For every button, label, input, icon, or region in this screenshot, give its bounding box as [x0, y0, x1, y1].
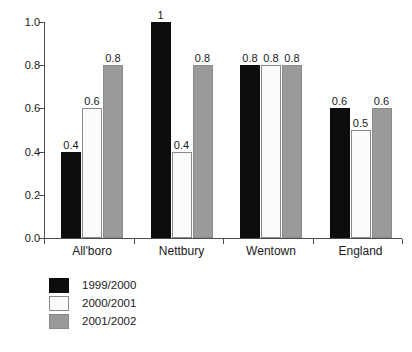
plot-area: 1.0 0.8 0.6 0.4 0.2 0.0 0.40.60.810.40.8…: [44, 22, 402, 238]
bar[interactable]: 0.6: [372, 108, 392, 238]
y-tick-label: 0.2: [25, 189, 40, 200]
x-tick: [223, 239, 224, 244]
bar[interactable]: 0.6: [82, 108, 102, 238]
bar-group: 0.80.80.8: [240, 22, 302, 238]
bar[interactable]: 0.8: [193, 65, 213, 238]
y-tick-label: 0.8: [25, 60, 40, 71]
legend-item[interactable]: 2001/2002: [49, 312, 136, 330]
bar[interactable]: 0.6: [330, 108, 350, 238]
bar-value-label: 0.8: [284, 52, 299, 64]
bar-value-label: 0.5: [353, 117, 368, 129]
y-tick-label: 1.0: [25, 17, 40, 28]
bar-value-label: 0.8: [105, 52, 120, 64]
bar-value-label: 0.8: [242, 52, 257, 64]
bar-group: 0.40.60.8: [61, 22, 123, 238]
x-tick: [402, 239, 403, 244]
legend-item-label: 2001/2002: [82, 315, 136, 328]
bar-value-label: 1: [157, 9, 163, 21]
y-tick-label: 0.0: [25, 233, 40, 244]
bar-group: 0.60.50.6: [330, 22, 392, 238]
bar-group: 10.40.8: [151, 22, 213, 238]
bar[interactable]: 1: [151, 22, 171, 238]
bar[interactable]: 0.8: [240, 65, 260, 238]
x-tick: [134, 239, 135, 244]
legend-item-label: 1999/2000: [82, 279, 136, 292]
bar[interactable]: 0.8: [282, 65, 302, 238]
bar-value-label: 0.4: [174, 139, 189, 151]
black-swatch-icon: [49, 278, 69, 293]
bar-value-label: 0.8: [195, 52, 210, 64]
bar-value-label: 0.4: [63, 139, 78, 151]
y-tick-label: 0.6: [25, 103, 40, 114]
bar-value-label: 0.6: [332, 95, 347, 107]
legend-item-label: 2000/2001: [82, 297, 136, 310]
legend-item[interactable]: 1999/2000: [49, 276, 136, 294]
legend-item[interactable]: 2000/2001: [49, 294, 136, 312]
category-label: Nettbury: [159, 244, 204, 258]
category-label: Wentown: [246, 244, 296, 258]
category-label: England: [338, 244, 382, 258]
bar[interactable]: 0.8: [103, 65, 123, 238]
white-swatch-icon: [49, 296, 69, 311]
y-tick-label: 0.4: [25, 146, 40, 157]
x-tick: [44, 239, 45, 244]
bar-value-label: 0.8: [263, 52, 278, 64]
bar-value-label: 0.6: [84, 95, 99, 107]
bar-chart: 1.0 0.8 0.6 0.4 0.2 0.0 0.40.60.810.40.8…: [0, 0, 412, 352]
bar-value-label: 0.6: [374, 95, 389, 107]
x-tick: [313, 239, 314, 244]
bar[interactable]: 0.5: [351, 130, 371, 238]
bar[interactable]: 0.4: [172, 152, 192, 238]
bar[interactable]: 0.8: [261, 65, 281, 238]
bar[interactable]: 0.4: [61, 152, 81, 238]
category-label: All'boro: [72, 244, 112, 258]
legend: 1999/2000 2000/2001 2001/2002: [49, 276, 136, 330]
gray-swatch-icon: [49, 314, 69, 329]
